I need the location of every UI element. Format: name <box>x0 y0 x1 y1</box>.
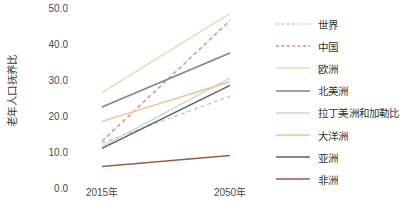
line-chart: 老年人口抚养比 0.010.020.030.040.050.0 2015年205… <box>0 0 412 210</box>
y-axis-title-text: 老年人口抚养比 <box>4 54 19 127</box>
legend: 世界中国欧洲北美洲拉丁美洲和加勒比大洋洲亚洲非洲 <box>276 17 410 197</box>
legend-item[interactable]: 非洲 <box>276 172 338 186</box>
legend-swatch-icon <box>276 108 310 118</box>
legend-swatch-icon <box>276 63 310 73</box>
legend-item-label: 中国 <box>318 39 338 54</box>
legend-item[interactable]: 欧洲 <box>276 61 338 75</box>
legend-swatch-icon <box>276 41 310 51</box>
y-axis-tick-label: 20.0 <box>26 111 68 122</box>
y-axis-tick-labels: 0.010.020.030.040.050.0 <box>20 0 68 210</box>
y-axis-tick-label: 30.0 <box>26 75 68 86</box>
x-axis-tick-label: 2050年 <box>214 184 246 199</box>
series-line-6 <box>102 85 230 148</box>
y-axis-tick-label: 10.0 <box>26 147 68 158</box>
legend-item-label: 大洋洲 <box>318 128 349 143</box>
legend-swatch-icon <box>276 86 310 96</box>
y-axis-title: 老年人口抚养比 <box>2 0 20 180</box>
plot-lines <box>72 8 260 188</box>
legend-item-label: 非洲 <box>318 172 338 187</box>
legend-item-label: 欧洲 <box>318 61 338 76</box>
legend-item[interactable]: 拉丁美洲和加勒比 <box>276 106 400 120</box>
legend-item[interactable]: 世界 <box>276 17 338 31</box>
y-axis-tick-label: 40.0 <box>26 39 68 50</box>
legend-item[interactable]: 北美洲 <box>276 84 349 98</box>
legend-swatch-icon <box>276 152 310 162</box>
x-axis-tick-labels: 2015年2050年 <box>72 184 260 206</box>
y-axis-tick-label: 50.0 <box>26 3 68 14</box>
legend-item-label: 亚洲 <box>318 150 338 165</box>
legend-item-label: 世界 <box>318 17 338 32</box>
legend-item-label: 拉丁美洲和加勒比 <box>318 105 400 120</box>
legend-swatch-icon <box>276 130 310 140</box>
legend-swatch-icon <box>276 174 310 184</box>
plot-area <box>72 8 260 188</box>
series-line-5 <box>102 82 230 122</box>
legend-item[interactable]: 亚洲 <box>276 150 338 164</box>
legend-item-label: 北美洲 <box>318 83 349 98</box>
series-line-7 <box>102 156 230 167</box>
legend-item[interactable]: 大洋洲 <box>276 128 349 142</box>
legend-item[interactable]: 中国 <box>276 39 338 53</box>
legend-swatch-icon <box>276 19 310 29</box>
y-axis-tick-label: 0.0 <box>26 183 68 194</box>
x-axis-tick-label: 2015年 <box>86 184 118 199</box>
